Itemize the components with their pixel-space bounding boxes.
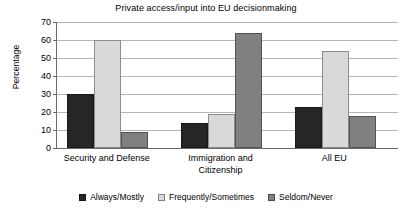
legend-item: Always/Mostly (79, 192, 144, 202)
legend-swatch-icon (79, 194, 86, 201)
bar (94, 40, 121, 148)
bar (322, 51, 349, 148)
y-tick-label-10: 10 (41, 126, 51, 135)
legend-swatch-icon (268, 194, 275, 201)
chart-legend: Always/MostlyFrequently/SometimesSeldom/… (0, 192, 412, 202)
y-tick-label-70: 70 (41, 18, 51, 27)
bar (121, 132, 148, 148)
gridline-0 (57, 148, 398, 149)
legend-swatch-icon (158, 194, 165, 201)
plot-area: 010203040506070 (56, 22, 398, 149)
y-tick-0 (53, 148, 57, 149)
legend-item: Frequently/Sometimes (158, 192, 254, 202)
legend-label: Frequently/Sometimes (169, 192, 254, 202)
x-axis-labels: Security and DefenseImmigration and Citi… (56, 152, 397, 184)
y-tick-label-40: 40 (41, 72, 51, 81)
bar (181, 123, 208, 148)
y-tick-label-30: 30 (41, 90, 51, 99)
bar (349, 116, 376, 148)
y-tick-label-60: 60 (41, 36, 51, 45)
legend-item: Seldom/Never (268, 192, 333, 202)
bar-chart: Private access/input into EU decisionmak… (0, 0, 412, 214)
y-tick-label-20: 20 (41, 108, 51, 117)
legend-label: Always/Mostly (90, 192, 144, 202)
bar (235, 33, 262, 148)
bars-layer (57, 22, 398, 148)
x-axis-label: Security and Defense (47, 152, 167, 164)
x-axis-label: All EU (274, 152, 394, 164)
y-tick-label-50: 50 (41, 54, 51, 63)
bar (67, 94, 94, 148)
legend-label: Seldom/Never (279, 192, 333, 202)
bar (208, 114, 235, 148)
x-axis-label: Immigration and Citizenship (161, 152, 281, 176)
chart-title: Private access/input into EU decisionmak… (0, 3, 412, 14)
y-axis-title: Percentage (11, 27, 21, 107)
bar (295, 107, 322, 148)
